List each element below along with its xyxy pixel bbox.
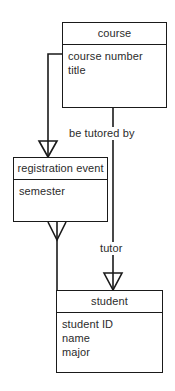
relationship-label-be-tutored-by: be tutored by [67, 127, 137, 140]
uml-attribute: major [62, 345, 162, 359]
uml-class-student[interactable]: student student ID name major [56, 290, 163, 373]
connector-course-to-registration-event [39, 54, 62, 157]
uml-attribute: student ID [62, 317, 162, 331]
uml-class-name-registration-event: registration event [14, 158, 107, 180]
uml-attribute: course number [68, 49, 166, 63]
relationship-label-tutor: tutor [98, 242, 125, 255]
uml-class-diagram-canvas: course course number title registration … [0, 0, 175, 391]
uml-class-name-student: student [57, 291, 162, 313]
uml-class-name-course: course [63, 23, 166, 45]
uml-class-course[interactable]: course course number title [62, 22, 167, 108]
uml-attributes-registration-event: semester [14, 180, 107, 202]
uml-attribute: name [62, 331, 162, 345]
uml-attributes-course: course number title [63, 45, 166, 81]
uml-class-registration-event[interactable]: registration event semester [13, 157, 108, 222]
connector-registration-event-to-student [48, 222, 66, 290]
uml-attribute: title [68, 63, 166, 77]
uml-attribute: semester [19, 184, 107, 198]
uml-attributes-student: student ID name major [57, 313, 162, 363]
